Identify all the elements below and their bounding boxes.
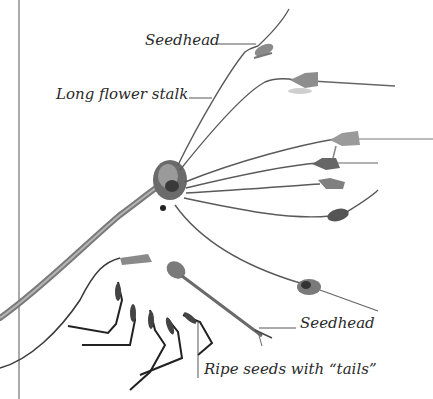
leader-lines — [189, 44, 296, 378]
label-long-flower-stalk: Long flower stalk — [56, 87, 188, 102]
detached-seedhead — [163, 258, 272, 346]
lower-stem — [0, 254, 152, 368]
seedhead-top — [253, 9, 289, 59]
seedhead-2 — [288, 72, 395, 94]
label-seedhead-bottom: Seedhead — [300, 316, 375, 331]
botanical-illustration: Seedhead Long flower stalk Seedhead Ripe… — [0, 0, 433, 399]
label-ripe-seeds: Ripe seeds with “tails” — [204, 362, 377, 377]
seedhead-3 — [330, 131, 433, 158]
seedhead-7 — [297, 279, 378, 311]
seedheads — [253, 9, 433, 311]
seed-bodies — [115, 283, 198, 335]
seedhead-4 — [312, 158, 378, 170]
main-stem — [0, 185, 160, 318]
ripe-seeds — [68, 282, 212, 390]
seedhead-5 — [318, 178, 345, 189]
seedhead-6 — [326, 190, 378, 224]
label-seedhead-top: Seedhead — [145, 33, 220, 48]
plant-drawing — [0, 0, 433, 399]
